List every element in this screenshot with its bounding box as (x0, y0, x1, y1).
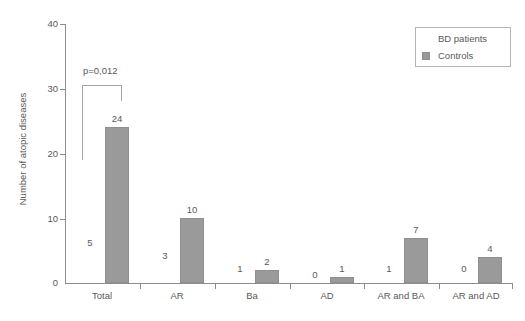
bar-total-controls (105, 127, 129, 283)
value-label-arba-bd: 1 (386, 264, 391, 274)
value-label-ar-controls: 10 (187, 205, 198, 215)
value-label-ar-bd: 3 (162, 251, 167, 261)
bar-ar-and-ba-controls (404, 238, 428, 283)
y-tick-mark-10 (60, 219, 65, 220)
significance-bracket-right-leg (121, 85, 122, 101)
bar-ba-bd-patients (229, 277, 252, 283)
legend-label-bd-patients: BD patients (438, 34, 487, 44)
bar-ar-controls (180, 218, 204, 283)
x-cat-label-ba: Ba (246, 291, 258, 301)
x-cat-label-ar-and-ba: AR and BA (378, 291, 425, 301)
legend-entry-controls: Controls (422, 49, 473, 63)
y-tick-label-0: 0 (12, 278, 58, 288)
value-label-arba-controls: 7 (413, 225, 418, 235)
bar-ar-and-ad-controls (478, 257, 502, 283)
p-value-annotation: p=0,012 (83, 66, 118, 76)
x-axis-line (65, 283, 513, 284)
y-tick-mark-30 (60, 89, 65, 90)
legend-swatch-controls-icon (422, 52, 430, 60)
bar-ba-controls (255, 270, 279, 283)
value-label-total-controls: 24 (112, 114, 123, 124)
value-label-arad-bd: 0 (461, 264, 466, 274)
legend-entry-bd-patients: BD patients (422, 32, 487, 46)
value-label-ba-bd: 1 (237, 264, 242, 274)
x-cat-label-total: Total (92, 291, 112, 301)
value-label-total-bd: 5 (87, 238, 92, 248)
bar-total-bd-patients (79, 251, 102, 283)
bar-chart-figure: 40 30 20 10 0 Number of atopic diseases … (0, 0, 525, 321)
x-tick-mark-3 (290, 284, 291, 289)
y-axis-title: Number of atopic diseases (18, 64, 28, 234)
y-tick-40: 40 (0, 19, 58, 29)
value-label-ba-controls: 2 (264, 257, 269, 267)
value-label-ad-bd: 0 (312, 270, 317, 280)
y-axis-line (65, 24, 66, 284)
y-tick-label-40: 40 (12, 19, 58, 29)
x-cat-label-ar-and-ad: AR and AD (453, 291, 500, 301)
bar-ar-and-ba-bd-patients (378, 277, 401, 283)
value-label-arad-controls: 4 (487, 244, 492, 254)
y-tick-mark-40 (60, 24, 65, 25)
value-label-ad-controls: 1 (339, 264, 344, 274)
legend-label-controls: Controls (438, 51, 473, 61)
x-tick-mark-5 (439, 284, 440, 289)
x-tick-mark-2 (215, 284, 216, 289)
x-cat-label-ar: AR (170, 291, 183, 301)
y-tick-10: 10 (0, 214, 58, 224)
significance-bracket-left-leg (82, 85, 83, 160)
x-cat-label-ad: AD (320, 291, 333, 301)
y-tick-0: 0 (0, 278, 58, 288)
y-tick-20: 20 (0, 149, 58, 159)
x-tick-mark-1 (140, 284, 141, 289)
chart-legend: BD patients Controls (415, 27, 511, 67)
legend-swatch-bd-patients-icon (422, 35, 430, 43)
x-tick-mark-6 (512, 284, 513, 289)
x-tick-mark-4 (364, 284, 365, 289)
y-tick-30: 30 (0, 84, 58, 94)
significance-bracket-top (82, 85, 122, 86)
bar-ar-bd-patients (154, 264, 177, 283)
bar-ad-controls (330, 277, 354, 283)
y-tick-mark-20 (60, 154, 65, 155)
